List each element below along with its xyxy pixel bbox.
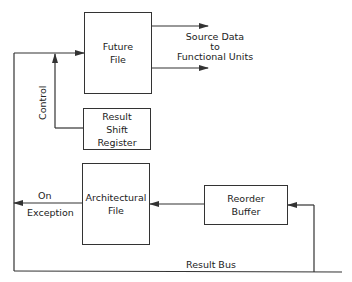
arch-file-label-1: Architectural (86, 191, 147, 204)
future-file-diagram: Future File Result Shift Register Archit… (0, 0, 352, 282)
future-file-label-2: File (110, 53, 126, 66)
reorder-buffer-label-2: Buffer (232, 205, 261, 218)
control-label: Control (38, 86, 48, 120)
rsr-label-1: Result (102, 110, 131, 123)
reorder-buffer-box: Reorder Buffer (204, 185, 288, 225)
result-shift-register-box: Result Shift Register (83, 108, 151, 150)
source-data-line-3: Functional Units (165, 52, 265, 62)
on-label: On (38, 191, 52, 201)
exception-label: Exception (27, 208, 74, 218)
arch-file-label-2: File (108, 204, 124, 217)
future-file-label-1: Future (103, 40, 133, 53)
result-bus-label: Result Bus (186, 260, 236, 270)
rsr-label-3: Register (97, 136, 136, 149)
future-file-box: Future File (84, 12, 152, 94)
source-data-label: Source Data to Functional Units (165, 32, 265, 62)
architectural-file-box: Architectural File (82, 163, 150, 245)
rsr-label-2: Shift (106, 123, 128, 136)
reorder-buffer-label-1: Reorder (227, 192, 264, 205)
